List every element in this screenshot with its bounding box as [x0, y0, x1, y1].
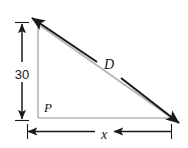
hypotenuse-arrow-lower [121, 78, 179, 123]
right-angle-vertex-label: P [43, 100, 52, 115]
vertical-leg-label: 30 [15, 67, 29, 82]
geometry-figure: 30 x D P [0, 0, 188, 148]
triangle-diagram-canvas: 30 x D P [0, 0, 188, 148]
hypotenuse-label: D [103, 57, 114, 72]
horizontal-leg-label: x [100, 127, 108, 142]
hypotenuse-arrow-upper [32, 18, 97, 62]
horizontal-dimension [28, 124, 172, 139]
